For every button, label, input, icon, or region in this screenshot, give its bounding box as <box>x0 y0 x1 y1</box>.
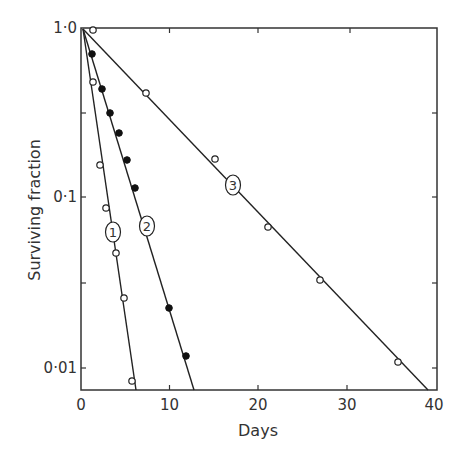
fit-line-2 <box>83 29 194 390</box>
curve-label-1: 1 <box>106 222 121 242</box>
x-ticks <box>170 28 351 390</box>
y-tick-label-0.1: 0·1 <box>53 188 77 206</box>
x-tick-label-40: 40 <box>424 396 443 414</box>
svg-text:3: 3 <box>229 178 237 193</box>
y-tick-label-0.01: 0·01 <box>44 359 77 377</box>
x-tick-label-30: 30 <box>337 396 356 414</box>
x-axis-title: Days <box>238 421 278 440</box>
fit-line-3 <box>83 29 428 390</box>
y-axis-title: Surviving fraction <box>25 139 44 281</box>
x-tick-label-0: 0 <box>76 396 86 414</box>
curve-label-2: 2 <box>140 216 155 236</box>
svg-text:2: 2 <box>143 219 151 234</box>
svg-text:1: 1 <box>109 225 117 240</box>
series-3-points <box>90 27 401 365</box>
fit-lines <box>83 29 428 390</box>
y-ticks <box>81 113 437 368</box>
curve-label-3: 3 <box>226 175 241 195</box>
x-tick-label-20: 20 <box>248 396 267 414</box>
chart: 0 10 20 30 40 1·0 0·1 0·01 Days Survivin… <box>0 0 457 451</box>
y-tick-label-1: 1·0 <box>53 19 77 37</box>
x-tick-label-10: 10 <box>160 396 179 414</box>
